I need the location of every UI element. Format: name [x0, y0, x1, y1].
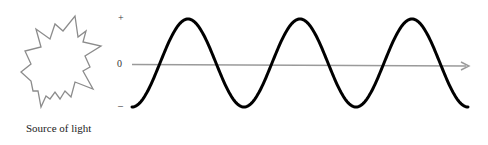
- axis-label-plus: +: [118, 13, 124, 23]
- sine-wave: [132, 19, 468, 107]
- light-wave-diagram: + 0 – Source of light: [0, 0, 488, 145]
- caption-source-of-light: Source of light: [26, 122, 91, 134]
- zero-axis: [132, 62, 469, 70]
- axis-label-minus: –: [118, 101, 123, 111]
- axis-label-zero: 0: [117, 59, 122, 69]
- starburst-icon: [21, 16, 101, 107]
